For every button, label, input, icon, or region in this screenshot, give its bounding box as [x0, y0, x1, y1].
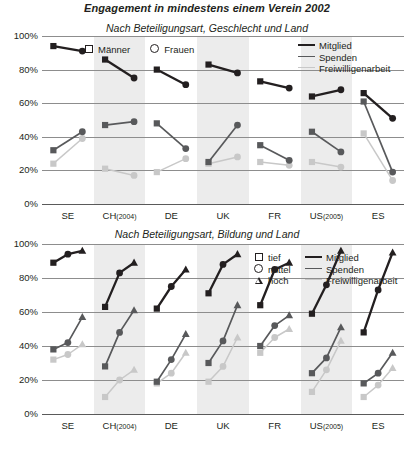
marker-triangle: [337, 323, 345, 330]
legend-item-freiwilligenarbeit: Freiwilligenarbeit: [298, 63, 390, 75]
triangle-outline-icon: [252, 275, 265, 287]
y-axis-tick-label: 80%: [0, 64, 38, 75]
marker-square: [50, 260, 56, 266]
marker-circle: [220, 261, 227, 268]
x-axis-tick-label: CH(2004): [103, 420, 137, 431]
marker-circle: [79, 128, 86, 135]
marker-triangle: [182, 265, 190, 272]
marker-circle: [234, 122, 241, 129]
y-axis-tick-label: 40%: [0, 340, 38, 351]
marker-circle: [64, 351, 71, 358]
marker-circle: [168, 356, 175, 363]
series-line: [105, 122, 134, 125]
marker-square: [205, 290, 211, 296]
marker-circle: [286, 85, 293, 92]
marker-square: [50, 147, 56, 153]
marker-triangle: [337, 337, 345, 344]
x-axis-tick-label: US(2005): [310, 420, 343, 431]
y-axis-tick-label: 40%: [0, 131, 38, 142]
x-axis-gender: SECH(2004)DEUKFRUS(2005)ES: [42, 208, 404, 224]
series-line: [209, 305, 238, 363]
x-axis-tick-label: DE: [165, 420, 178, 431]
marker-square: [102, 304, 108, 310]
gridline: [42, 204, 404, 205]
legend-item-hoch: hoch: [252, 275, 291, 287]
legend-item-spenden: Spenden: [298, 52, 390, 64]
series-line: [105, 263, 134, 307]
marker-triangle: [234, 333, 242, 340]
series-line: [364, 93, 393, 118]
marker-triangle: [285, 325, 293, 332]
marker-circle: [389, 169, 396, 176]
legend-label: Spenden: [319, 52, 357, 64]
series-line: [209, 125, 238, 162]
y-axis-tick-label: 60%: [0, 97, 38, 108]
marker-circle: [271, 334, 278, 341]
marker-triangle: [182, 349, 190, 356]
marker-square: [361, 98, 367, 104]
marker-circle: [338, 149, 345, 156]
marker-circle: [131, 118, 138, 125]
legend-item-mitglied: Mitglied: [298, 40, 390, 52]
marker-square: [50, 161, 56, 167]
square-outline-icon: [252, 252, 265, 264]
y-axis-tick-label: 100%: [0, 30, 38, 41]
marker-circle: [375, 287, 382, 294]
legend-label: tief: [268, 252, 281, 264]
marker-square: [309, 93, 315, 99]
page-title: Engagement in mindestens einem Verein 20…: [0, 2, 414, 14]
marker-square: [102, 394, 108, 400]
marker-circle: [323, 355, 330, 362]
series-line: [53, 46, 82, 51]
marker-square: [361, 380, 367, 386]
marker-square: [257, 302, 263, 308]
legend-label: mittel: [268, 264, 291, 276]
marker-triangle: [130, 306, 138, 313]
series-line: [209, 65, 238, 73]
marker-triangle: [130, 259, 138, 266]
marker-triangle: [234, 301, 242, 308]
chart1-line-legend: Mitglied Spenden Freiwilligenarbeit: [298, 40, 390, 75]
legend-label: Mitglied: [326, 252, 359, 264]
y-axis-tick-label: 0%: [0, 408, 38, 419]
marker-circle: [286, 157, 293, 164]
y-axis-tick-label: 20%: [0, 164, 38, 175]
marker-square: [257, 350, 263, 356]
series-line: [209, 254, 238, 293]
marker-square: [257, 159, 263, 165]
marker-circle: [182, 155, 189, 162]
x-axis-tick-label: US(2005): [310, 210, 343, 221]
square-outline-icon: [82, 44, 95, 56]
chart1-subtitle: Nach Beteiligungsart, Geschlecht und Lan…: [0, 22, 414, 34]
y-axis-tick-label: 100%: [0, 238, 38, 249]
marker-circle: [375, 382, 382, 389]
marker-square: [257, 142, 263, 148]
legend-label: Mitglied: [319, 40, 352, 52]
marker-square: [361, 90, 367, 96]
marker-triangle: [182, 330, 190, 337]
y-axis-tick-label: 60%: [0, 306, 38, 317]
chart-panel-education: 0%20%40%60%80%100% SECH(2004)DEUKFRUS(20…: [0, 244, 414, 449]
marker-circle: [338, 164, 345, 171]
circle-outline-icon: [252, 264, 265, 276]
marker-square: [205, 379, 211, 385]
marker-circle: [234, 70, 241, 77]
x-axis-tick-label: ES: [372, 210, 385, 221]
series-line: [364, 102, 393, 173]
marker-circle: [116, 377, 123, 384]
legend-label: Frauen: [164, 44, 194, 56]
marker-square: [102, 122, 108, 128]
marker-circle: [271, 322, 278, 329]
marker-triangle: [78, 340, 86, 347]
x-axis-tick-label: SE: [62, 210, 75, 221]
legend-item-mittel: mittel: [252, 264, 291, 276]
marker-square: [154, 169, 160, 175]
marker-circle: [182, 145, 189, 152]
x-axis-tick-label: ES: [372, 420, 385, 431]
legend-item-tief: tief: [252, 252, 291, 264]
series-line: [209, 157, 238, 164]
series-line: [53, 132, 82, 150]
line-swatch-icon: [305, 268, 322, 269]
marker-square: [102, 363, 108, 369]
marker-circle: [234, 154, 241, 161]
